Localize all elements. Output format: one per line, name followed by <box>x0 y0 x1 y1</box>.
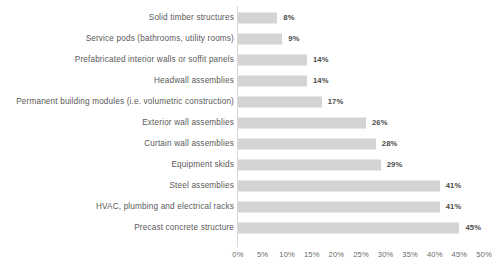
bar-value-label: 26% <box>372 118 388 127</box>
bar-track: 8% <box>238 12 484 23</box>
x-axis-tick-label: 15% <box>304 250 320 259</box>
bar-value-label: 41% <box>446 181 462 190</box>
bar-track: 41% <box>238 180 484 191</box>
category-label: HVAC, plumbing and electrical racks <box>96 202 234 211</box>
bar-row: Steel assemblies41% <box>0 175 502 196</box>
bar <box>238 159 381 170</box>
bar-rows: Solid timber structures8%Service pods (b… <box>0 7 502 238</box>
x-axis-tick-label: 35% <box>402 250 418 259</box>
x-axis-tick-label: 10% <box>279 250 295 259</box>
category-label: Service pods (bathrooms, utility rooms) <box>86 34 234 43</box>
bar <box>238 96 322 107</box>
bar-row: Equipment skids29% <box>0 154 502 175</box>
bar-row: Exterior wall assemblies26% <box>0 112 502 133</box>
category-label: Headwall assemblies <box>154 76 234 85</box>
x-axis-tick-label: 50% <box>476 250 492 259</box>
bar <box>238 138 376 149</box>
category-label: Prefabricated interior walls or soffit p… <box>75 55 234 64</box>
category-label: Equipment skids <box>171 160 234 169</box>
bar-row: Curtain wall assemblies28% <box>0 133 502 154</box>
bar <box>238 201 440 212</box>
bar-track: 45% <box>238 222 484 233</box>
bar <box>238 33 282 44</box>
x-axis-tick-label: 25% <box>353 250 369 259</box>
bar-value-label: 41% <box>446 202 462 211</box>
bar <box>238 180 440 191</box>
bar <box>238 54 307 65</box>
plot-area: Solid timber structures8%Service pods (b… <box>0 0 502 247</box>
bar-track: 41% <box>238 201 484 212</box>
x-axis-tick-label: 20% <box>329 250 345 259</box>
bar-value-label: 17% <box>328 97 344 106</box>
bar <box>238 75 307 86</box>
bar-track: 9% <box>238 33 484 44</box>
category-label: Exterior wall assemblies <box>142 118 234 127</box>
bar-row: HVAC, plumbing and electrical racks41% <box>0 196 502 217</box>
bar-row: Headwall assemblies14% <box>0 70 502 91</box>
bar-row: Solid timber structures8% <box>0 7 502 28</box>
bar-row: Precast concrete structure45% <box>0 217 502 238</box>
category-label: Steel assemblies <box>169 181 234 190</box>
category-label: Permanent building modules (i.e. volumet… <box>16 97 234 106</box>
bar-value-label: 8% <box>283 13 294 22</box>
category-label: Curtain wall assemblies <box>144 139 234 148</box>
bar-track: 28% <box>238 138 484 149</box>
bar-value-label: 45% <box>465 223 481 232</box>
x-axis-tick-label: 0% <box>232 250 243 259</box>
bar-value-label: 14% <box>313 55 329 64</box>
horizontal-bar-chart: Solid timber structures8%Service pods (b… <box>0 0 502 278</box>
category-label: Precast concrete structure <box>134 223 234 232</box>
bar-value-label: 28% <box>382 139 398 148</box>
bar-track: 29% <box>238 159 484 170</box>
category-label: Solid timber structures <box>149 13 234 22</box>
bar <box>238 117 366 128</box>
bar-row: Prefabricated interior walls or soffit p… <box>0 49 502 70</box>
x-axis-tick-label: 5% <box>257 250 268 259</box>
bar-value-label: 29% <box>387 160 403 169</box>
bar-row: Service pods (bathrooms, utility rooms)9… <box>0 28 502 49</box>
x-axis-tick-label: 45% <box>452 250 468 259</box>
bar <box>238 12 277 23</box>
x-axis-tick-label: 40% <box>427 250 443 259</box>
bar-value-label: 9% <box>288 34 299 43</box>
bar-row: Permanent building modules (i.e. volumet… <box>0 91 502 112</box>
x-axis: 0%5%10%15%20%25%30%35%40%45%50% <box>238 250 484 270</box>
x-axis-tick-label: 30% <box>378 250 394 259</box>
bar-track: 14% <box>238 75 484 86</box>
bar-track: 14% <box>238 54 484 65</box>
bar-value-label: 14% <box>313 76 329 85</box>
bar-track: 17% <box>238 96 484 107</box>
bar-track: 26% <box>238 117 484 128</box>
bar <box>238 222 459 233</box>
